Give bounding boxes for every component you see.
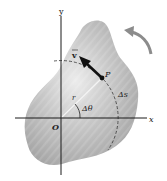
- rigid-body-rotation-diagram: y x O P v r Δθ Δs: [0, 0, 167, 181]
- y-axis-label: y: [58, 7, 64, 16]
- rotation-arrow-icon: [124, 26, 151, 54]
- angle-label: Δθ: [81, 104, 93, 113]
- velocity-label: v: [71, 50, 77, 60]
- arc-length-label: Δs: [117, 90, 128, 99]
- point-p-label: P: [104, 70, 111, 79]
- x-axis-label: x: [149, 115, 154, 124]
- origin-label: O: [52, 122, 59, 132]
- point-p-dot: [100, 76, 105, 81]
